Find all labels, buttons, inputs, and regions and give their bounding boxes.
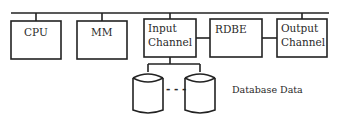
cpu-label: CPU: [24, 26, 48, 38]
database-cylinder-icon: [133, 74, 163, 113]
output-channel-label-line1: Output: [281, 22, 319, 34]
output-channel-node: Output Channel: [277, 19, 327, 57]
input-channel-node: Input Channel: [144, 19, 196, 57]
cpu-node: CPU: [11, 21, 61, 59]
mm-node: MM: [77, 21, 127, 59]
system-architecture-diagram: CPU MM Input Channel RDBE Output Channel…: [0, 0, 339, 122]
input-channel-label-line2: Channel: [148, 36, 193, 48]
output-channel-label-line2: Channel: [281, 36, 326, 48]
database-data-label: Database Data: [232, 84, 303, 95]
rdbe-node: RDBE: [210, 19, 262, 57]
database-ellipsis: - - -: [166, 83, 186, 95]
mm-label: MM: [91, 26, 113, 38]
database-cylinder-icon: [185, 74, 215, 113]
rdbe-label: RDBE: [215, 23, 247, 35]
input-channel-label-line1: Input: [148, 22, 177, 34]
